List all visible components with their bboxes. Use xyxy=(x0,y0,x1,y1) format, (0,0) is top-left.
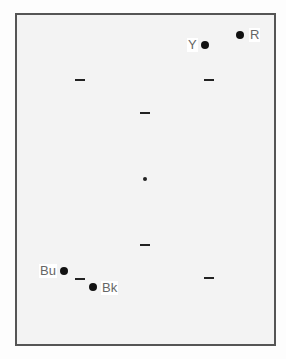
dash-marker-upper-left xyxy=(75,79,85,81)
point-red xyxy=(236,31,244,39)
label-blue: Bu xyxy=(39,264,57,278)
point-yellow xyxy=(201,41,209,49)
label-yellow: Y xyxy=(187,38,198,52)
dash-marker-lower-left xyxy=(75,278,85,280)
dash-marker-upper-center xyxy=(140,112,150,114)
dash-marker-lower-right xyxy=(204,277,214,279)
point-black xyxy=(89,283,97,291)
label-red: R xyxy=(249,28,260,42)
label-black: Bk xyxy=(101,281,118,295)
dash-marker-upper-right xyxy=(204,79,214,81)
point-blue xyxy=(60,267,68,275)
center-point xyxy=(143,177,147,181)
dash-marker-lower-center xyxy=(140,244,150,246)
